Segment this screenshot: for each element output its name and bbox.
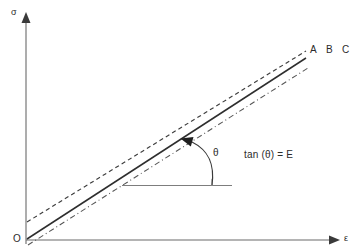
y-axis-arrowhead xyxy=(22,12,31,23)
angle-arc-arrowhead xyxy=(181,137,194,147)
curve-a-dashed-line xyxy=(27,51,306,222)
tangent-equation-label: tan (θ) = E xyxy=(244,150,293,160)
curve-label-c: C xyxy=(342,45,349,55)
origin-label: O xyxy=(13,234,21,244)
y-axis-label: σ xyxy=(11,8,17,17)
curve-label-a: A xyxy=(310,45,317,55)
stress-strain-figure: σ ε O A B C θ tan (θ) = E xyxy=(0,0,361,252)
x-axis-label: ε xyxy=(344,234,348,243)
angle-theta-label: θ xyxy=(213,148,219,158)
x-axis xyxy=(26,236,340,245)
angle-arc-path xyxy=(192,142,213,185)
angle-arc xyxy=(181,137,213,185)
x-axis-arrowhead xyxy=(329,236,340,245)
curve-label-b: B xyxy=(326,45,333,55)
y-axis xyxy=(22,12,31,244)
figure-canvas xyxy=(0,0,361,252)
